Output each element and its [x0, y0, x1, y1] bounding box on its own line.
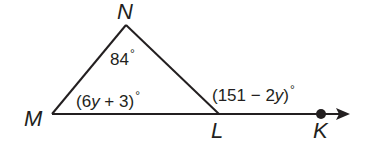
- exterior-angle-post: ): [283, 86, 289, 105]
- exterior-angle-l-label: (151 − 2y)°: [212, 84, 295, 104]
- degree-symbol: °: [135, 89, 140, 103]
- angle-m-pre: (6: [76, 92, 91, 111]
- angle-n-value: 84: [110, 50, 129, 69]
- angle-n-label: 84°: [110, 48, 135, 68]
- angle-m-variable: y: [91, 92, 100, 111]
- point-label-k: K: [313, 120, 328, 142]
- angle-m-post: + 3): [100, 92, 135, 111]
- degree-symbol: °: [290, 83, 295, 97]
- exterior-angle-pre: (151 − 2: [212, 86, 275, 105]
- degree-symbol: °: [130, 47, 135, 61]
- angle-m-label: (6y + 3)°: [76, 90, 140, 110]
- vertex-label-n: N: [117, 1, 133, 23]
- vertex-label-l: L: [211, 120, 223, 142]
- vertex-label-m: M: [24, 108, 42, 130]
